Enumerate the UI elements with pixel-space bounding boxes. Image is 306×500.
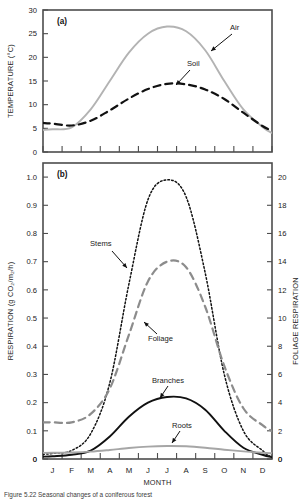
- seasonal-respiration-figure: (a)051015202530(b)00.10.20.30.40.50.60.7…: [0, 0, 306, 500]
- figure-caption: Figure 5.22 Seasonal changes of a conife…: [4, 491, 304, 500]
- label-stems: Stems: [90, 239, 112, 248]
- panel-b-frame: [43, 163, 272, 459]
- month-label-d-11: D: [260, 466, 266, 475]
- curve-stems: [43, 180, 272, 458]
- y-tick-label-right: 12: [278, 286, 286, 295]
- y-axis-title-foliage: FOLIAGE RESPIRATION: [291, 277, 300, 364]
- y-tick-label-right: 20: [278, 173, 286, 182]
- y-tick-label-left: 1.0: [26, 173, 37, 182]
- label-roots: Roots: [172, 421, 192, 430]
- y-tick-label-left: 0.7: [26, 257, 37, 266]
- y-tick-label-right: 14: [278, 257, 286, 266]
- month-label-o-9: O: [221, 466, 227, 475]
- y-tick-label-left: 15: [29, 77, 37, 86]
- y-tick-label-left: 0.2: [26, 398, 37, 407]
- y-tick-label-left: 0.4: [26, 342, 37, 351]
- y-tick-label-left: 30: [29, 6, 37, 15]
- y-tick-label-left: 0.3: [26, 370, 37, 379]
- curve-air: [43, 26, 272, 133]
- y-tick-label-right: 10: [278, 314, 286, 323]
- curve-foliage: [43, 260, 272, 431]
- y-tick-label-right: 18: [278, 201, 286, 210]
- y-tick-label-left: 0.9: [26, 201, 37, 210]
- y-tick-label-left: 25: [29, 29, 37, 38]
- month-label-a-7: A: [184, 466, 190, 475]
- y-tick-label-right: 8: [278, 342, 282, 351]
- y-axis-title-temperature: TEMPERATURE (°C): [6, 44, 15, 118]
- panel-b-id: (b): [57, 170, 68, 179]
- month-label-m-4: M: [126, 466, 133, 475]
- month-label-j-0: J: [51, 466, 55, 475]
- figure-container: (a)051015202530(b)00.10.20.30.40.50.60.7…: [0, 0, 306, 500]
- y-tick-label-left: 0.1: [26, 427, 37, 436]
- y-tick-label-right: 6: [278, 370, 282, 379]
- generated-chart-layer: (a)051015202530(b)00.10.20.30.40.50.60.7…: [6, 6, 300, 487]
- month-label-s-8: S: [203, 466, 208, 475]
- y-tick-label-left: 5: [33, 124, 37, 133]
- y-tick-label-left: 20: [29, 53, 37, 62]
- zero-label-left: 0: [33, 455, 37, 464]
- leader-roots-head: [172, 438, 176, 443]
- x-axis-title: MONTH: [143, 478, 171, 487]
- y-tick-label-right: 16: [278, 229, 286, 238]
- month-label-j-6: J: [165, 466, 169, 475]
- y-tick-label-left: 0: [33, 148, 37, 157]
- label-air: Air: [230, 23, 240, 32]
- month-label-f-1: F: [69, 466, 74, 475]
- y-tick-label-left: 10: [29, 100, 37, 109]
- y-tick-label-left: 0.6: [26, 286, 37, 295]
- month-label-j-5: J: [146, 466, 150, 475]
- y-tick-label-right: 2: [278, 427, 282, 436]
- panel-a-id: (a): [57, 17, 67, 26]
- y-tick-label-left: 0.5: [26, 314, 37, 323]
- month-label-m-2: M: [87, 466, 94, 475]
- y-tick-label-left: 0.8: [26, 229, 37, 238]
- label-soil: Soil: [187, 59, 200, 68]
- y-axis-title-respiration: RESPIRATION (g CO₂/m₂/h): [6, 262, 15, 361]
- month-label-a-3: A: [107, 466, 113, 475]
- month-label-n-10: N: [241, 466, 247, 475]
- y-tick-label-right: 4: [278, 398, 282, 407]
- label-branches: Branches: [152, 376, 184, 385]
- label-foliage: Foliage: [148, 334, 173, 343]
- zero-label-right: 0: [278, 455, 282, 464]
